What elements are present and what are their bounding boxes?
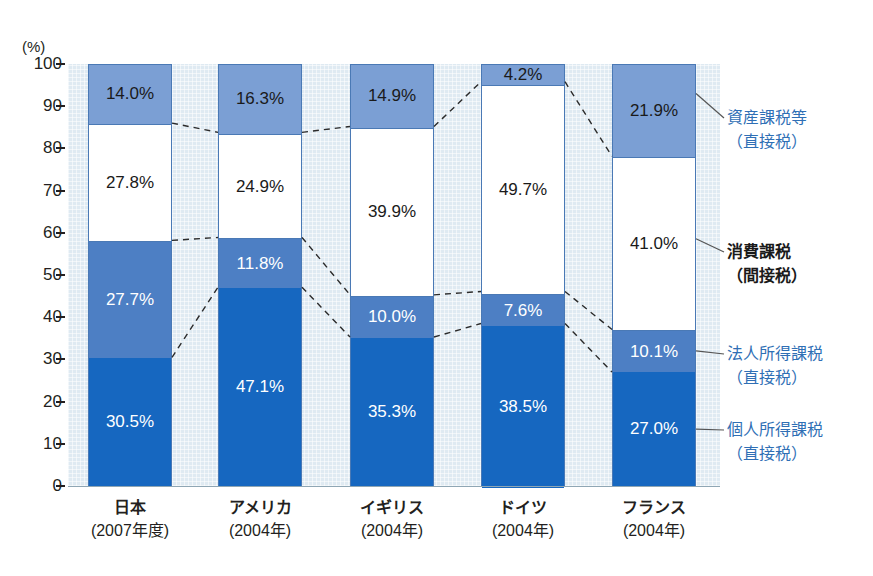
bar-segment: 14.9% bbox=[351, 65, 433, 128]
bar-segment: 30.5% bbox=[89, 358, 171, 486]
bar-segment-value-label: 7.6% bbox=[504, 301, 543, 321]
bar-segment-value-label: 27.0% bbox=[630, 419, 678, 439]
legend-item: 法人所得課税（直接税） bbox=[727, 342, 823, 390]
legend-item-label-line2: （直接税） bbox=[727, 442, 823, 466]
legend-item: 資産課税等（直接税） bbox=[727, 106, 807, 154]
bar-segment-value-label: 35.3% bbox=[368, 402, 416, 422]
bar-segment: 4.2% bbox=[482, 65, 564, 85]
legend-item: 消費課税（間接税） bbox=[727, 240, 807, 288]
y-axis-tick-mark bbox=[56, 443, 65, 445]
legend-item-label-line1: 個人所得課税 bbox=[727, 418, 823, 442]
bar-segment-value-label: 14.0% bbox=[106, 84, 154, 104]
x-axis-category-label: 日本(2007年度) bbox=[60, 496, 200, 542]
bar-segment: 27.7% bbox=[89, 241, 171, 358]
bar-segment-value-label: 24.9% bbox=[236, 177, 284, 197]
stacked-bar-chart: (%) 1009080706050403020100 14.0%27.8%27.… bbox=[0, 0, 873, 576]
bar-segment-value-label: 27.7% bbox=[106, 290, 154, 310]
x-axis-country-name: ドイツ bbox=[453, 496, 593, 519]
bar-4: 4.2%49.7%7.6%38.5% bbox=[481, 64, 565, 486]
y-axis-tick-mark bbox=[56, 358, 65, 360]
bar-5: 21.9%41.0%10.1%27.0% bbox=[612, 64, 696, 486]
bar-segment: 41.0% bbox=[613, 157, 695, 330]
bar-segment: 49.7% bbox=[482, 85, 564, 294]
bar-segment-value-label: 49.7% bbox=[499, 180, 547, 200]
y-axis-tick-mark bbox=[56, 63, 65, 65]
bar-segment: 10.0% bbox=[351, 296, 433, 338]
x-axis-country-name: イギリス bbox=[322, 496, 462, 519]
bar-segment-value-label: 47.1% bbox=[236, 377, 284, 397]
plot-area: 14.0%27.8%27.7%30.5%16.3%24.9%11.8%47.1%… bbox=[68, 64, 720, 486]
legend-item: 個人所得課税（直接税） bbox=[727, 418, 823, 466]
legend-item-label-line2: （直接税） bbox=[727, 366, 823, 390]
x-axis-year-label: (2004年) bbox=[322, 519, 462, 542]
legend-item-label-line1: 資産課税等 bbox=[727, 106, 807, 130]
x-axis-line bbox=[68, 486, 720, 487]
bar-segment: 27.8% bbox=[89, 124, 171, 241]
bar-segment-value-label: 38.5% bbox=[499, 397, 547, 417]
bar-segment-value-label: 27.8% bbox=[106, 173, 154, 193]
x-axis-year-label: (2004年) bbox=[190, 519, 330, 542]
bar-segment-value-label: 41.0% bbox=[630, 234, 678, 254]
bar-1: 14.0%27.8%27.7%30.5% bbox=[88, 64, 172, 486]
x-axis-country-name: フランス bbox=[584, 496, 724, 519]
y-axis-tick-mark bbox=[56, 401, 65, 403]
bar-segment-value-label: 10.0% bbox=[368, 307, 416, 327]
x-axis-year-label: (2004年) bbox=[584, 519, 724, 542]
y-axis-tick-mark bbox=[56, 485, 65, 487]
bar-3: 14.9%39.9%10.0%35.3% bbox=[350, 64, 434, 486]
bar-segment: 11.8% bbox=[219, 238, 301, 288]
bar-segment-value-label: 14.9% bbox=[368, 86, 416, 106]
bar-segment: 39.9% bbox=[351, 128, 433, 296]
bar-segment-value-label: 21.9% bbox=[630, 101, 678, 121]
x-axis-year-label: (2007年度) bbox=[60, 519, 200, 542]
bar-segment: 24.9% bbox=[219, 134, 301, 239]
bar-segment: 47.1% bbox=[219, 288, 301, 486]
x-axis-country-name: 日本 bbox=[60, 496, 200, 519]
bar-segment: 21.9% bbox=[613, 65, 695, 157]
legend-item-label-line2: （直接税） bbox=[727, 130, 807, 154]
y-axis-tick-mark bbox=[56, 274, 65, 276]
x-axis-year-label: (2004年) bbox=[453, 519, 593, 542]
bar-segment-value-label: 4.2% bbox=[504, 65, 543, 85]
x-axis-category-label: ドイツ(2004年) bbox=[453, 496, 593, 542]
y-axis-tick-mark bbox=[56, 316, 65, 318]
y-axis-tick-mark bbox=[56, 232, 65, 234]
x-axis-category-label: アメリカ(2004年) bbox=[190, 496, 330, 542]
y-axis-tick-mark bbox=[56, 105, 65, 107]
bar-2: 16.3%24.9%11.8%47.1% bbox=[218, 64, 302, 486]
bar-segment: 7.6% bbox=[482, 294, 564, 326]
bar-segment-value-label: 10.1% bbox=[630, 342, 678, 362]
bar-segment: 14.0% bbox=[89, 65, 171, 124]
legend-item-label-line2: （間接税） bbox=[727, 264, 807, 288]
bar-segment-value-label: 16.3% bbox=[236, 89, 284, 109]
bar-segment-value-label: 39.9% bbox=[368, 202, 416, 222]
bar-segment-value-label: 11.8% bbox=[237, 254, 284, 274]
y-axis-tick-mark bbox=[56, 147, 65, 149]
x-axis-category-label: フランス(2004年) bbox=[584, 496, 724, 542]
bar-segment: 16.3% bbox=[219, 65, 301, 134]
y-axis-tick-mark bbox=[56, 190, 65, 192]
bar-segment: 38.5% bbox=[482, 326, 564, 488]
bar-segment: 27.0% bbox=[613, 372, 695, 486]
legend-item-label-line1: 法人所得課税 bbox=[727, 342, 823, 366]
bar-segment: 35.3% bbox=[351, 338, 433, 487]
x-axis-category-label: イギリス(2004年) bbox=[322, 496, 462, 542]
y-axis: 1009080706050403020100 bbox=[6, 0, 62, 576]
bar-segment-value-label: 30.5% bbox=[106, 412, 154, 432]
x-axis-country-name: アメリカ bbox=[190, 496, 330, 519]
bar-segment: 10.1% bbox=[613, 330, 695, 373]
legend-item-label-line1: 消費課税 bbox=[727, 240, 807, 264]
